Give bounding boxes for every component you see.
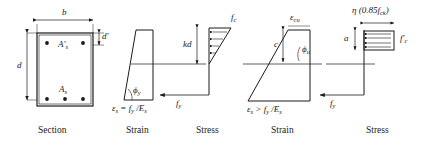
stress-block-depth-label: a: [344, 34, 349, 43]
ultimate-strain-equation: εs > fy /Es: [247, 105, 282, 114]
steel-stress-label-ultimate: fy: [330, 99, 335, 108]
figure-container: b d d′ A′s As ϕy εs = fy /Es kd fc fy εc…: [0, 0, 433, 146]
top-steel-area-label: A′s: [58, 40, 68, 49]
stress-yield-drawing: [160, 28, 231, 95]
ultimate-concrete-strain-label: εcu: [290, 13, 300, 22]
caption-stress-ultimate: Stress: [366, 126, 389, 136]
steel-stress-label-yield: fy: [176, 99, 181, 108]
strain-ultimate-drawing: [243, 26, 322, 101]
section-depth-label: d: [17, 61, 22, 70]
neutral-axis-depth-label: kd: [183, 40, 192, 49]
stress-block-magnitude-label: η (0.85fck): [352, 6, 389, 15]
concrete-stress-label-yield: fc: [231, 13, 236, 22]
section-width-label: b: [62, 8, 67, 17]
ultimate-curvature-angle-label: ϕu: [302, 45, 310, 54]
caption-section: Section: [38, 126, 67, 136]
concrete-stress-label-ultimate: f′c: [400, 34, 407, 43]
section-cover-label: d′: [102, 32, 108, 41]
bottom-steel-area-label: As: [59, 85, 67, 94]
yield-curvature-angle-label: ϕy: [133, 86, 141, 95]
caption-strain-yield: Strain: [126, 126, 149, 136]
caption-stress-yield: Stress: [196, 126, 219, 136]
compression-depth-label: c: [274, 40, 278, 49]
caption-strain-ultimate: Strain: [271, 126, 294, 136]
yield-strain-equation: εs = fy /Es: [112, 104, 147, 113]
stress-ultimate-drawing: [320, 23, 394, 95]
